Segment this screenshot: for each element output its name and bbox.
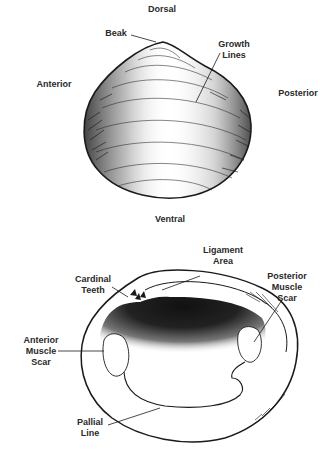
label-anterior-muscle-scar: Anterior Muscle Scar — [18, 335, 64, 368]
label-pallial-line: Pallial Line — [70, 417, 110, 439]
label-growth-lines: Growth Lines — [212, 39, 256, 61]
label-posterior-muscle-scar: Posterior Muscle Scar — [262, 271, 312, 304]
label-ventral: Ventral — [148, 214, 192, 225]
label-anterior: Anterior — [30, 79, 78, 90]
label-beak: Beak — [100, 28, 132, 39]
clam-illustration — [0, 0, 322, 452]
label-cardinal-teeth: Cardinal Teeth — [70, 274, 116, 296]
label-ligament-area: Ligament Area — [200, 245, 246, 267]
label-posterior: Posterior — [274, 88, 322, 99]
label-dorsal: Dorsal — [140, 4, 184, 15]
